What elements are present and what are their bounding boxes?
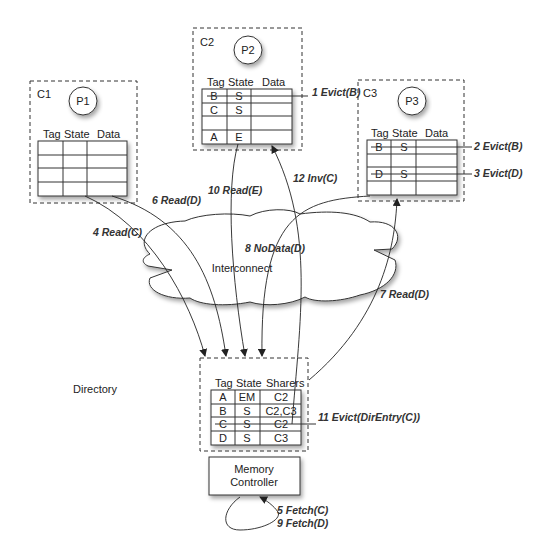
header-tag: Tag bbox=[207, 76, 225, 88]
dir-row1-tag: A bbox=[219, 391, 227, 403]
dir-row1-sharers: C2 bbox=[274, 391, 288, 403]
dir-row1-state: EM bbox=[239, 391, 256, 403]
cache-c1: C1 P1 Tag State Data bbox=[30, 81, 137, 203]
dir-row2-tag: B bbox=[219, 405, 226, 417]
msg-1-evict-b: 1 Evict(B) bbox=[312, 86, 361, 98]
dir-row2-sharers: C2,C3 bbox=[265, 405, 296, 417]
msg-7-read-d: 7 Read(D) bbox=[380, 288, 430, 300]
msg-12-inv-c: 12 Inv(C) bbox=[293, 172, 338, 184]
msg-6-read-d: 6 Read(D) bbox=[152, 194, 202, 206]
msg-3-evict-d: 3 Evict(D) bbox=[474, 167, 523, 179]
header-tag: Tag bbox=[43, 128, 61, 140]
cache-c2-label: C2 bbox=[200, 36, 214, 48]
header-tag: Tag bbox=[371, 127, 389, 139]
dir-header-tag: Tag bbox=[215, 377, 233, 389]
header-data: Data bbox=[262, 76, 286, 88]
dir-row4-sharers: C3 bbox=[274, 432, 288, 444]
dir-header-state: State bbox=[236, 377, 262, 389]
header-state: State bbox=[64, 128, 90, 140]
cache-c1-label: C1 bbox=[37, 88, 51, 100]
header-state: State bbox=[228, 76, 254, 88]
c2-row4-state: E bbox=[235, 131, 242, 143]
cache-c3: C3 P3 Tag State Data B S D S bbox=[358, 80, 472, 201]
memory-controller-label-line1: Memory bbox=[234, 463, 274, 475]
c2-row2-state: S bbox=[235, 104, 242, 116]
msg-8-nodata-d: 8 NoData(D) bbox=[245, 242, 306, 254]
header-data: Data bbox=[425, 127, 449, 139]
dir-row4-tag: D bbox=[219, 432, 227, 444]
cache-c3-label: C3 bbox=[363, 87, 377, 99]
msg-10-read-e: 10 Read(E) bbox=[208, 184, 263, 196]
msg-9-fetch-d: 9 Fetch(D) bbox=[277, 517, 329, 529]
dir-row2-state: S bbox=[243, 405, 250, 417]
cache-c2: C2 P2 Tag State Data B S C S A E bbox=[193, 28, 308, 150]
processor-p3-label: P3 bbox=[405, 95, 418, 107]
dir-row4-state: S bbox=[243, 432, 250, 444]
interconnect-cloud: Interconnect bbox=[143, 210, 397, 305]
c2-row2-tag: C bbox=[210, 104, 218, 116]
processor-p1-label: P1 bbox=[76, 95, 89, 107]
msg-5-fetch-c: 5 Fetch(C) bbox=[277, 504, 329, 516]
directory: Directory Tag State Sharers A EM C2 B S … bbox=[73, 358, 316, 451]
processor-p2-label: P2 bbox=[241, 44, 254, 56]
header-data: Data bbox=[97, 128, 121, 140]
msg-2-evict-b: 2 Evict(B) bbox=[473, 140, 523, 152]
header-state: State bbox=[392, 127, 418, 139]
interconnect-label: Interconnect bbox=[212, 262, 273, 274]
msg-4-read-c: 4 Read(C) bbox=[92, 226, 143, 238]
msg-11-evict-direntry-c: 11 Evict(DirEntry(C)) bbox=[318, 411, 420, 423]
memory-controller-label-line2: Controller bbox=[230, 476, 278, 488]
c2-row4-tag: A bbox=[210, 131, 218, 143]
fetch-loop-arrow bbox=[226, 497, 279, 530]
dir-header-sharers: Sharers bbox=[266, 377, 305, 389]
directory-label: Directory bbox=[73, 383, 118, 395]
